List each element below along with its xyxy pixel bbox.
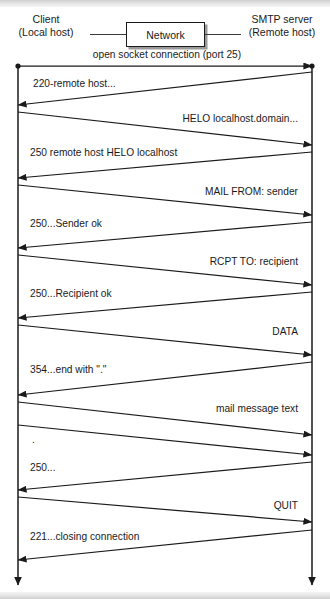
message-label-12: 250... [30,462,190,474]
message-label-8: DATA [180,326,298,338]
message-label-10: mail message text [100,403,298,415]
message-label-3: 250 remote host HELO localhost [30,147,270,159]
message-label-6: RCPT TO: recipient [100,256,298,268]
message-label-13: QUIT [180,500,298,512]
message-label-14: 221...closing connection [30,531,240,543]
message-label-2: HELO localhost.domain... [100,113,298,125]
message-label-5: 250...Sender ok [30,218,230,230]
message-label-1: 220-remote host... [33,78,233,90]
message-label-4: MAIL FROM: sender [100,186,298,198]
smtp-sequence-diagram: Client (Local host) Network SMTP server … [0,0,330,599]
message-label-0: open socket connection (port 25) [52,49,282,61]
message-label-7: 250...Recipient ok [30,288,230,300]
message-label-11: . [32,434,152,446]
messages-layer [18,66,312,560]
message-label-9: 354...end with "." [30,364,230,376]
